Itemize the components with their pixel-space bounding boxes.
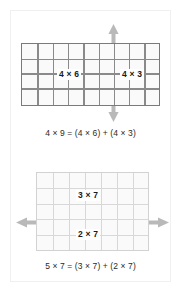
label-3x7: 3 × 7 bbox=[76, 190, 100, 201]
equation-bottom: 5 × 7 = (3 × 7) + (2 × 7) bbox=[0, 261, 181, 271]
grid-line-horizontal bbox=[22, 88, 159, 89]
figure-root: 4 × 6 4 × 3 4 × 9 = (4 × 6) + (4 × 3) bbox=[0, 0, 181, 292]
grid-line-horizontal bbox=[37, 204, 148, 205]
equation-top: 4 × 9 = (4 × 6) + (4 × 3) bbox=[0, 128, 181, 138]
grid-line-vertical bbox=[101, 173, 102, 250]
grid-line-horizontal bbox=[37, 219, 148, 220]
label-2x7: 2 × 7 bbox=[76, 229, 100, 240]
panel-five-by-seven: 3 × 7 2 × 7 5 × 7 = (3 × 7) + (2 × 7) bbox=[0, 166, 181, 278]
grid-line-vertical bbox=[53, 173, 54, 250]
grid-line-vertical bbox=[133, 173, 134, 250]
label-4x3: 4 × 3 bbox=[120, 69, 144, 80]
grid-line-vertical bbox=[69, 173, 70, 250]
panel-four-by-nine: 4 × 6 4 × 3 4 × 9 = (4 × 6) + (4 × 3) bbox=[0, 24, 181, 146]
label-4x6: 4 × 6 bbox=[57, 69, 81, 80]
grid-line-vertical bbox=[117, 173, 118, 250]
grid-line-horizontal bbox=[22, 59, 159, 60]
